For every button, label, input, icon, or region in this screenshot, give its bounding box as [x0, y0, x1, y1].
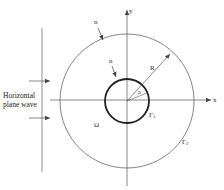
- y-axis-label: y: [129, 8, 133, 15]
- outer-boundary-label: Γ2: [182, 139, 189, 146]
- inner-normal-arrow: [112, 66, 116, 77]
- inner-boundary-label: Γ1: [149, 112, 156, 119]
- outer-boundary-subscript: 2: [186, 141, 189, 146]
- inner-radius-label: a: [138, 89, 141, 95]
- plane-wave-label-line1: Horizontal: [3, 91, 37, 100]
- outer-normal-label: n: [94, 19, 98, 26]
- inner-boundary-subscript: 1: [153, 114, 156, 119]
- outer-normal-arrow: [98, 28, 103, 40]
- inner-normal-label: n: [109, 58, 113, 65]
- plane-wave-label-line2: plane wave: [3, 100, 37, 109]
- outer-radius-label: R: [150, 65, 155, 72]
- domain-label: Ω: [94, 122, 99, 129]
- x-axis-label: x: [213, 97, 217, 104]
- plane-wave-label: Horizontal plane wave: [3, 91, 37, 109]
